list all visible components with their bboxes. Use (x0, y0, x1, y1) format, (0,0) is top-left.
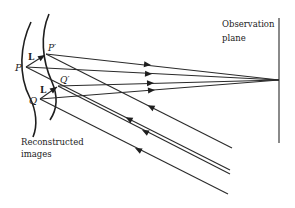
hologram-reconstruction-diagram: P P′ Q Q′ L L Observation plane Reconstr… (0, 0, 295, 208)
parallel-rays (26, 54, 232, 194)
label-P: P (14, 62, 22, 73)
reconstructed-images-label-1: Reconstructed (21, 137, 84, 147)
wavefront-curve-left (22, 22, 36, 137)
observation-plane-label-2: plane (222, 33, 246, 43)
label-Q: Q (29, 95, 37, 106)
observation-plane-label-1: Observation (222, 19, 275, 29)
label-Q-prime: Q′ (60, 75, 69, 85)
label-P-prime: P′ (47, 43, 56, 53)
label-L-lower: L (40, 85, 47, 95)
reconstructed-images-label-2: images (21, 149, 52, 159)
label-L-upper: L (28, 52, 35, 62)
